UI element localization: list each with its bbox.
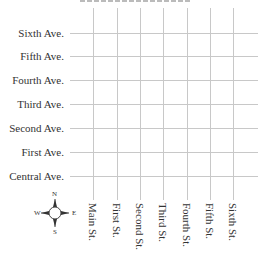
avenue-line bbox=[70, 152, 258, 153]
avenue-label: Central Ave. bbox=[9, 170, 64, 182]
avenue-label: Third Ave. bbox=[17, 98, 64, 110]
street-label: Second St. bbox=[134, 203, 146, 250]
street-line bbox=[117, 8, 118, 200]
street-line bbox=[140, 8, 141, 200]
street-label: Third St. bbox=[157, 203, 169, 242]
street-label: Fourth St. bbox=[181, 203, 193, 247]
avenue-line bbox=[70, 80, 258, 81]
street-line bbox=[187, 8, 188, 200]
street-line bbox=[93, 8, 94, 200]
street-line bbox=[163, 8, 164, 200]
clipped-title bbox=[80, 0, 192, 3]
compass-icon bbox=[34, 190, 78, 236]
avenue-label: Sixth Ave. bbox=[18, 27, 64, 39]
avenue-label: Second Ave. bbox=[9, 122, 64, 134]
avenue-label: First Ave. bbox=[21, 146, 64, 158]
street-line bbox=[210, 8, 211, 200]
avenue-line bbox=[70, 56, 258, 57]
street-label: First St. bbox=[111, 203, 123, 238]
street-label: Sixth St. bbox=[227, 203, 239, 241]
avenue-label: Fifth Ave. bbox=[20, 50, 64, 62]
compass-rose: N S W E bbox=[34, 190, 78, 236]
avenue-line bbox=[70, 176, 258, 177]
street-label: Fifth St. bbox=[204, 203, 216, 239]
street-line bbox=[233, 8, 234, 200]
street-label: Main St. bbox=[87, 203, 99, 241]
avenue-line bbox=[70, 104, 258, 105]
avenue-line bbox=[70, 33, 258, 34]
avenue-label: Fourth Ave. bbox=[12, 74, 64, 86]
avenue-line bbox=[70, 128, 258, 129]
